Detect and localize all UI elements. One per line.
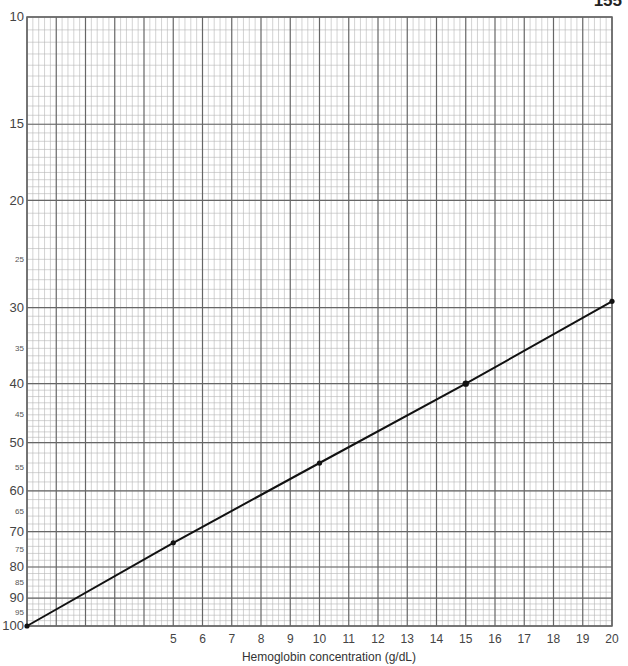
x-tick-label: 19 [571, 632, 595, 646]
y-tick-label: 45 [0, 410, 24, 419]
major-grid [27, 17, 612, 626]
y-tick-label: 20 [0, 193, 24, 208]
y-tick-label: 75 [0, 545, 24, 554]
x-tick-label: 18 [542, 632, 566, 646]
y-tick-label: 10 [0, 9, 24, 24]
data-point [609, 299, 614, 304]
x-tick-label: 12 [366, 632, 390, 646]
data-point [463, 380, 469, 386]
y-tick-label: 80 [0, 559, 24, 574]
x-tick-label: 9 [278, 632, 302, 646]
data-point [317, 460, 322, 465]
x-tick-label: 16 [483, 632, 507, 646]
x-tick-label: 5 [161, 632, 185, 646]
x-tick-label: 17 [512, 632, 536, 646]
x-tick-label: 20 [600, 632, 624, 646]
y-tick-label: 30 [0, 300, 24, 315]
data-point [24, 623, 29, 628]
y-tick-label: 85 [0, 578, 24, 587]
y-tick-label: 60 [0, 483, 24, 498]
x-tick-label: 8 [249, 632, 273, 646]
y-tick-label: 40 [0, 376, 24, 391]
y-tick-label: 65 [0, 507, 24, 516]
x-axis-title: Hemoglobin concentration (g/dL) [0, 650, 628, 664]
x-tick-label: 13 [395, 632, 419, 646]
y-tick-label: 95 [0, 608, 24, 617]
x-tick-label: 11 [337, 632, 361, 646]
x-tick-label: 7 [220, 632, 244, 646]
x-tick-label: 10 [308, 632, 332, 646]
y-tick-label: 25 [0, 255, 24, 264]
y-tick-label: 55 [0, 463, 24, 472]
semi-log-plot [0, 0, 628, 666]
data-point [171, 540, 176, 545]
y-tick-label: 35 [0, 344, 24, 353]
y-tick-label: 70 [0, 524, 24, 539]
x-tick-label: 14 [425, 632, 449, 646]
y-tick-label: 100 [0, 618, 24, 633]
x-tick-label: 15 [454, 632, 478, 646]
x-tick-label: 6 [191, 632, 215, 646]
y-tick-label: 90 [0, 590, 24, 605]
y-tick-label: 15 [0, 116, 24, 131]
y-tick-label: 50 [0, 435, 24, 450]
